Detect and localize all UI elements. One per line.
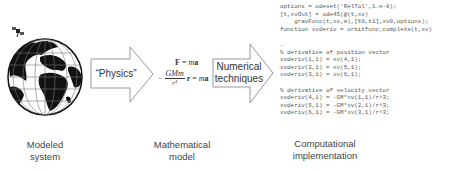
earth-globe-icon <box>6 37 84 117</box>
physics-arrow-label: “Physics” <box>92 68 140 80</box>
numerical-techniques-label: Numerical techniques <box>213 61 265 85</box>
code-line: xvderiv(1,1) = xv(4,1); <box>280 56 432 64</box>
code-line: xvderiv(4,1) = -GM*xv(1,1)/r^3; <box>280 94 432 102</box>
equation-gravity: − GMm r³ r = ma <box>158 69 209 88</box>
code-line: xvderiv(2,1) = xv(5,1); <box>280 64 432 72</box>
code-line: function xvderiv = orbitfunc_complete(t,… <box>280 26 432 34</box>
code-line: options = odeset('RelTol',1.e-8); <box>280 3 432 11</box>
code-line <box>280 79 432 87</box>
code-line: xvderiv(6,1) = -GM*xv(3,1)/r^3; <box>280 109 432 117</box>
code-line: % derivative of velocity vector <box>280 87 432 95</box>
code-line: % derivative of position vector <box>280 49 432 57</box>
code-line: gravFunc(t,xv,m),[t0,t1],xv0,options); <box>280 18 432 26</box>
matlab-code-block: options = odeset('RelTol',1.e-8);[t,xvOu… <box>280 3 432 117</box>
caption-modeled-system: Modeled system <box>12 139 78 163</box>
caption-computational-implementation: Computational implementation <box>275 138 375 162</box>
code-line: [t,xvOut] = ode45(@(t,xv) <box>280 11 432 19</box>
code-line <box>280 33 432 41</box>
caption-mathematical-model: Mathematical model <box>142 139 222 163</box>
equation-newton: F = ma <box>175 58 198 67</box>
code-line: xvderiv(3,1) = xv(6,1); <box>280 71 432 79</box>
code-line: … <box>280 41 432 49</box>
code-line: xvderiv(5,1) = -GM*xv(2,1)/r^3; <box>280 102 432 110</box>
